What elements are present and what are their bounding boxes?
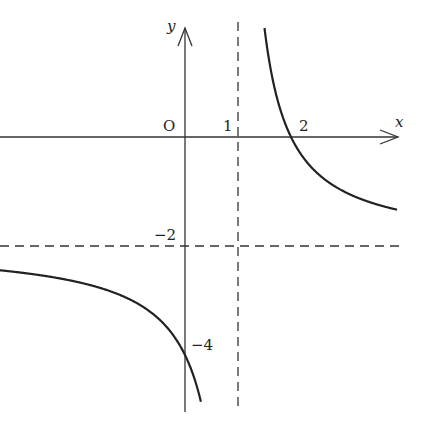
x-axis-label: x <box>395 113 404 131</box>
y-axis-label: y <box>166 17 176 35</box>
origin-label: O <box>163 117 175 135</box>
y-tick-minus-4: −4 <box>191 336 213 354</box>
y-tick-minus-2: −2 <box>154 226 176 244</box>
x-tick-2: 2 <box>299 117 309 135</box>
function-graph: y x O 1 2 −2 −4 <box>0 0 427 440</box>
curve-left-branch <box>0 270 201 401</box>
curve-right-branch <box>265 28 398 210</box>
x-tick-1: 1 <box>223 117 233 135</box>
